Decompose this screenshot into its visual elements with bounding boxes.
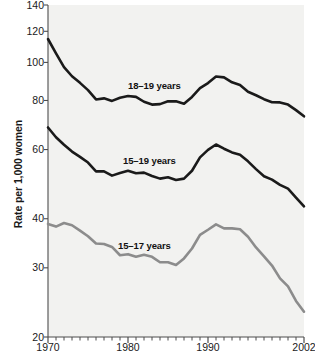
series-line-18-19 years bbox=[48, 39, 304, 116]
teen-birth-rate-chart: Rate per 1,000 women 1401201008060403020… bbox=[0, 0, 315, 360]
chart-svg bbox=[0, 0, 315, 360]
axes-lines bbox=[48, 5, 304, 337]
series-line-15-17 years bbox=[48, 223, 304, 312]
data-series-lines bbox=[48, 39, 304, 312]
series-line-15-19 years bbox=[48, 127, 304, 206]
axis-tick-marks bbox=[44, 5, 304, 343]
